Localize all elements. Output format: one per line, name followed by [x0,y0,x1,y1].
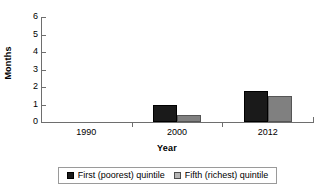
x-axis-title: Year [0,143,334,153]
bar [268,96,292,122]
bar [153,105,177,123]
bar-chart: 0123456 199020002012 Months Year First (… [0,0,334,191]
x-axis-separator [132,122,133,127]
legend-item-first-quintile: First (poorest) quintile [67,171,165,180]
bar [177,115,201,122]
dark-square-swatch-icon [67,172,74,179]
y-axis-tick-label: 5 [16,30,38,39]
y-axis-tick [42,122,46,123]
x-axis-category-label: 2000 [137,127,217,137]
x-axis-line [41,122,314,123]
legend-label: First (poorest) quintile [78,171,165,180]
y-axis-tick-label: 2 [16,82,38,91]
y-axis-tick-label: 0 [16,117,38,126]
legend-label: Fifth (richest) quintile [185,171,269,180]
x-axis-category-label: 1990 [46,127,126,137]
y-axis-tick-label: 4 [16,47,38,56]
light-square-swatch-icon [174,172,181,179]
legend-item-fifth-quintile: Fifth (richest) quintile [174,171,269,180]
y-axis-tick-label: 3 [16,65,38,74]
bar [244,91,268,123]
y-axis-tick-label: 6 [16,12,38,21]
x-axis-category-label: 2012 [228,127,308,137]
bars-layer [41,17,314,122]
y-axis-tick-label: 1 [16,100,38,109]
chart-legend: First (poorest) quintile Fifth (richest)… [58,167,277,184]
x-axis-separator [222,122,223,127]
y-axis-title: Months [3,33,13,93]
